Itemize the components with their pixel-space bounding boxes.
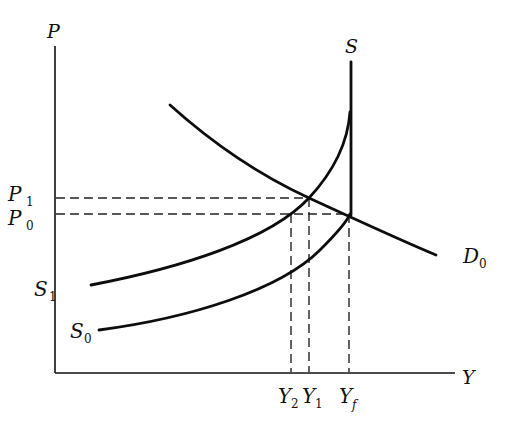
d0-subscript: 0: [479, 257, 487, 271]
supply-curve-s0: [99, 214, 350, 330]
p0-label: P: [7, 206, 22, 230]
s0-label: S: [70, 319, 84, 343]
s1-subscript: 1: [49, 290, 57, 304]
diagram-canvas: P Y S P 1 P 0 S 1 S 0 D 0 Y 2 Y 1 Y f: [0, 0, 508, 423]
y2-subscript: 2: [291, 397, 299, 411]
p1-label: P: [7, 182, 22, 206]
s0-subscript: 0: [84, 332, 92, 346]
output-axis-label: Y: [462, 366, 477, 388]
p0-subscript: 0: [26, 219, 34, 233]
demand-curve-d0: [170, 105, 436, 255]
y1-subscript: 1: [315, 397, 323, 411]
long-run-supply-label: S: [345, 35, 358, 57]
price-axis-label: P: [46, 20, 61, 42]
d0-label: D: [462, 244, 479, 268]
yf-subscript: f: [351, 398, 359, 412]
p1-subscript: 1: [26, 195, 34, 209]
s1-label: S: [34, 277, 48, 301]
